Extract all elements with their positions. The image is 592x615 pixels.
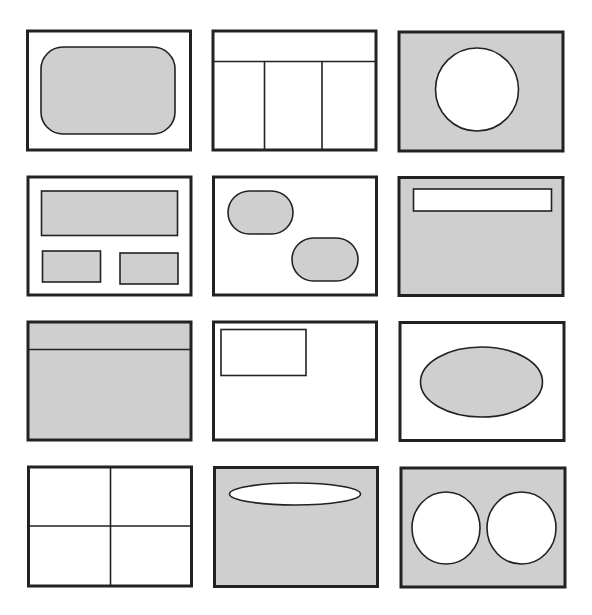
ellipse-shape: [421, 347, 543, 417]
panel-r4c1: [29, 467, 192, 586]
panel-r3c1: [28, 322, 191, 440]
small-box-shape: [221, 330, 306, 376]
pill-shape: [228, 191, 293, 234]
top-bar-shape: [414, 189, 552, 211]
circle-shape: [412, 492, 480, 564]
small-rectangle-shape: [120, 253, 178, 284]
layout-grid-diagram: .frame{stroke:#222;stroke-width:3;} .inn…: [0, 0, 592, 615]
wide-rectangle-shape: [42, 191, 178, 236]
circle-shape: [436, 48, 519, 131]
panel-r2c2: [214, 177, 377, 295]
rounded-rectangle-shape: [41, 47, 175, 134]
panel-r1c1: [28, 31, 191, 150]
panel-r2c1: [28, 177, 191, 295]
small-rectangle-shape: [43, 251, 101, 282]
panel-r3c2: [214, 322, 377, 440]
panel-r2c3: [399, 178, 563, 296]
thin-ellipse-shape: [230, 483, 361, 505]
pill-shape: [292, 238, 358, 281]
circle-shape: [487, 492, 556, 564]
panel-r4c3: [401, 468, 565, 587]
panel-r1c2: [213, 31, 376, 150]
panel-r1c3: [399, 32, 563, 151]
panel-r3c3: [400, 323, 564, 441]
panel-r4c2: [215, 468, 378, 587]
